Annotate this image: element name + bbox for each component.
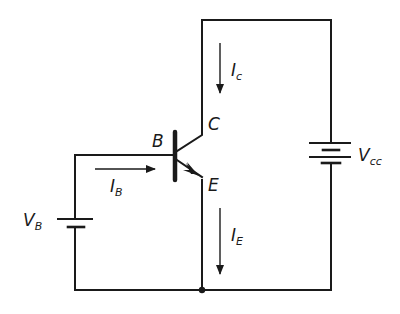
label-base: B: [152, 131, 164, 151]
label-collector: C: [208, 114, 220, 134]
label-emitter: E: [208, 175, 219, 195]
base-loop-wire: [75, 155, 174, 219]
circuit-diagram: B C E Ic IB IE VB Vcc: [0, 0, 400, 314]
junction-node: [199, 287, 205, 293]
label-ie: IE: [231, 225, 243, 248]
label-ic: Ic: [231, 60, 242, 83]
label-vcc: Vcc: [358, 145, 382, 168]
label-vb: VB: [23, 210, 42, 233]
label-ib: IB: [110, 176, 123, 199]
vcc-battery: [310, 143, 350, 163]
npn-transistor: [175, 120, 202, 180]
collector-lead: [177, 120, 202, 151]
vb-battery: [58, 219, 92, 227]
